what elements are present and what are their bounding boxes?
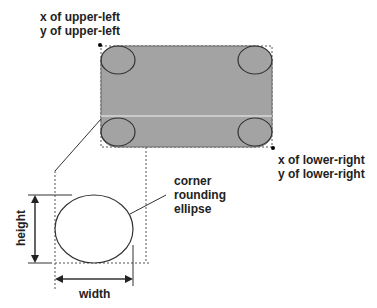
width-arrow-right [125, 275, 133, 283]
ellipse-label-line-3: ellipse [174, 202, 226, 216]
width-arrow-left [55, 275, 63, 283]
upper-left-x-label: x of upper-left [40, 10, 120, 24]
lower-right-dot [271, 146, 275, 150]
zoom-guide-diagonal [55, 119, 101, 171]
rounded-rectangle [101, 46, 272, 147]
lower-right-y-label: y of lower-right [278, 167, 365, 181]
width-label: width [79, 287, 110, 301]
ellipse-leader-line [130, 195, 166, 214]
upper-left-label: x of upper-left y of upper-left [40, 10, 120, 38]
lower-right-x-label: x of lower-right [278, 153, 365, 167]
upper-left-dot [98, 43, 102, 47]
height-label: height [14, 208, 28, 248]
ellipse-label-line-2: rounding [174, 188, 226, 202]
ellipse-label-line-1: corner [174, 174, 226, 188]
height-arrow-top [31, 195, 39, 203]
enlarged-corner-ellipse [55, 195, 133, 263]
ellipse-label: corner rounding ellipse [174, 174, 226, 216]
height-arrow-bottom [31, 255, 39, 263]
upper-left-y-label: y of upper-left [40, 24, 120, 38]
lower-right-label: x of lower-right y of lower-right [278, 153, 365, 181]
